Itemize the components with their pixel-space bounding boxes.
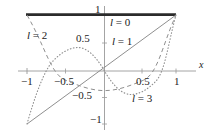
curve-label-l1: l = 1 [112,36,132,47]
x-tick-label-neg-half: −0.5 [54,76,74,87]
curve-label-l2-eq: = 2 [33,29,47,41]
plot-canvas [0,0,216,132]
y-tick-label-1: 1 [95,4,101,15]
y-tick-label-neg1: −1 [90,114,102,125]
x-axis-label: x [199,60,203,70]
curve-label-l0-eq: = 0 [116,16,130,28]
curve-label-l0: l = 0 [110,17,130,28]
curve-l2 [27,15,176,91]
curve-label-l1-eq: = 1 [118,35,132,47]
x-tick-label-half: 0.5 [136,76,150,87]
legendre-polynomial-plot: −1 −0.5 0.5 1 1 0.5 −0.5 −1 x l = 2 l = … [0,0,216,132]
y-tick-label-neg-half: −0.5 [72,90,92,101]
curve-label-l3-eq: = 3 [138,92,152,104]
x-tick-label-1: 1 [174,76,180,87]
y-tick-label-half: 0.5 [76,33,90,44]
x-tick-label-neg1: −1 [21,76,33,87]
curve-label-l3: l = 3 [132,93,152,104]
curve-label-l2: l = 2 [27,30,47,41]
